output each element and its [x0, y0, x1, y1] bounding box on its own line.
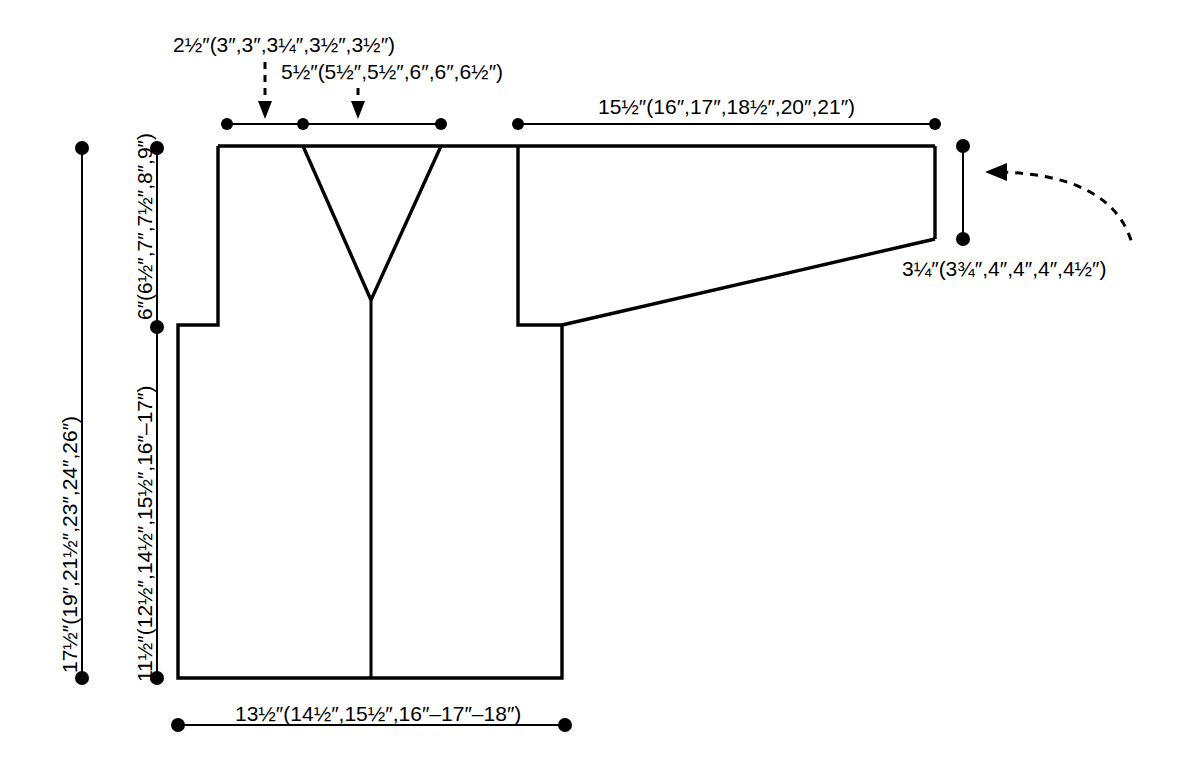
sleeve-underarm-seam	[562, 239, 935, 325]
dim-endpoint-dot	[956, 232, 970, 246]
label-total-length: 17½″(19″,21½″,23″,24″,26″)	[58, 416, 82, 673]
label-armhole-depth: 6″(6½″,7″,7½″,8″,9″)	[133, 133, 157, 320]
dim-midpoint-dot	[150, 320, 164, 334]
sleeve-outline	[518, 146, 562, 325]
label-body-length: 11½″(12½″,14½″,15½″,16″–17″)	[133, 386, 157, 682]
dim-endpoint-dot	[435, 118, 447, 130]
v-neck-left-edge	[303, 146, 371, 300]
dim-endpoint-dot	[929, 118, 941, 130]
garment-outline	[178, 146, 935, 678]
v-neck-right-edge	[371, 146, 441, 300]
dim-endpoint-dot	[512, 118, 524, 130]
schematic-page: 2½″(3″,3″,3¼″,3½″,3½″) 5½″(5½″,5½″,6″,6″…	[0, 0, 1188, 771]
label-sleeve-length: 15½″(16″,17″,18½″,20″,21″)	[598, 95, 855, 119]
left-body-outline	[178, 146, 371, 678]
right-body-outline	[371, 325, 562, 678]
curved-dashed-arrow-cuff	[985, 163, 1133, 247]
schematic-drawing	[0, 0, 1188, 771]
dim-endpoint-dot	[221, 118, 233, 130]
dim-midpoint-dot	[297, 118, 309, 130]
dim-endpoint-dot	[956, 139, 970, 153]
dashed-arrow-shoulder	[258, 62, 272, 119]
label-neck-width: 5½″(5½″,5½″,6″,6″,6½″)	[281, 60, 503, 84]
dimension-line-shoulder-neck	[221, 118, 447, 130]
dim-endpoint-dot	[171, 718, 185, 732]
label-body-width: 13½″(14½″,15½″,16″–17″–18″)	[235, 702, 521, 726]
dim-endpoint-dot	[558, 718, 572, 732]
dashed-arrow-neck	[351, 88, 365, 119]
dim-endpoint-dot	[75, 671, 89, 685]
label-shoulder-width: 2½″(3″,3″,3¼″,3½″,3½″)	[173, 33, 395, 57]
dim-endpoint-dot	[75, 141, 89, 155]
dimension-line-cuff-width	[956, 139, 970, 246]
label-cuff-width: 3¼″(3¾″,4″,4″,4″,4½″)	[902, 257, 1107, 281]
dimension-line-sleeve-length	[512, 118, 941, 130]
